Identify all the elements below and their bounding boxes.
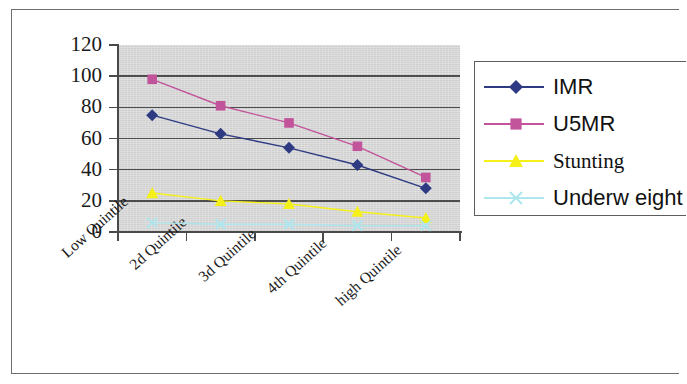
series-line [152, 79, 426, 177]
data-point [146, 109, 158, 121]
legend-item-underweight: Underw eight [475, 179, 687, 217]
y-tick-mark [109, 138, 118, 140]
legend-swatch [484, 114, 544, 134]
data-point [283, 142, 295, 154]
data-point [353, 141, 363, 151]
legend-label: Stunting [553, 151, 624, 172]
series-u5mr [147, 74, 430, 182]
series-stunting [146, 187, 432, 223]
y-tick-mark [109, 169, 118, 171]
x-tick-mark [391, 232, 393, 241]
y-tick-label: 80 [56, 96, 102, 117]
legend-item-u5mr: U5MR [475, 105, 687, 143]
data-point [284, 118, 294, 128]
data-point [351, 159, 363, 171]
data-point [146, 187, 158, 198]
x-tick-mark [117, 232, 119, 241]
data-point [421, 173, 431, 183]
y-tick-mark [109, 44, 118, 46]
legend-marker-diamond-icon [508, 79, 524, 95]
legend-label: U5MR [553, 113, 615, 135]
data-series-layer [118, 45, 460, 232]
legend-item-stunting: Stunting [475, 142, 687, 180]
x-tick-label: 3d Quintile [195, 225, 259, 285]
legend-swatch [484, 188, 544, 208]
data-point [420, 182, 432, 194]
legend-marker-triangle-icon [508, 153, 524, 169]
series-underweight [147, 218, 431, 231]
y-tick-label: 20 [56, 190, 102, 211]
y-tick-label: 60 [56, 128, 102, 149]
data-point [215, 128, 227, 140]
chart-legend: IMRU5MRStuntingUnderw eight [474, 61, 686, 216]
legend-item-imr: IMR [475, 68, 687, 106]
y-tick-label: 40 [56, 159, 102, 180]
legend-marker-square-icon [508, 116, 524, 132]
legend-swatch [484, 151, 544, 171]
x-tick-mark [459, 232, 461, 241]
y-tick-mark [109, 107, 118, 109]
x-tick-label: 4th Quintile [263, 234, 330, 297]
y-tick-label: 100 [56, 65, 102, 86]
legend-swatch [484, 77, 544, 97]
data-point [216, 101, 226, 111]
y-tick-label: 120 [56, 34, 102, 55]
x-tick-label: high Quintile [332, 241, 405, 309]
legend-marker-x-icon [508, 190, 524, 206]
legend-label: IMR [553, 76, 593, 98]
y-tick-mark [109, 75, 118, 77]
x-tick-mark [186, 232, 188, 241]
data-point [147, 74, 157, 84]
legend-label: Underw eight [553, 187, 683, 209]
